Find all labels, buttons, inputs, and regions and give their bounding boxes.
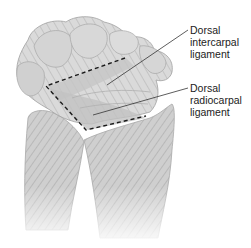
label-dorsal-radiocarpal-ligament: Dorsal radiocarpal ligament bbox=[190, 82, 242, 118]
anatomy-figure: Dorsal intercarpal ligament Dorsal radio… bbox=[0, 0, 251, 248]
label-dorsal-intercarpal-ligament: Dorsal intercarpal ligament bbox=[190, 24, 239, 60]
